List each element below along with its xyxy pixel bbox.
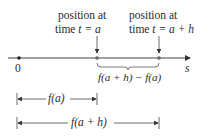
- caption-a-plus-h-line2: time t = a + h: [129, 23, 194, 36]
- brace-label: f(a + h) − f(a): [98, 71, 161, 84]
- point-a-plus-h: [157, 56, 161, 60]
- caption-a-var: t = a: [78, 23, 100, 35]
- caption-a-plus-h-var: t = a + h: [152, 23, 194, 35]
- caption-a-line2: time t = a: [55, 23, 101, 36]
- measure-fa-label: f(a): [48, 92, 65, 105]
- origin-label: 0: [15, 62, 21, 75]
- measure-fah-label: f(a + h): [71, 116, 107, 129]
- caption-a-plus-h-line1: position at: [129, 9, 177, 22]
- brace: [97, 63, 159, 70]
- caption-a-plus-h-prefix: time: [129, 23, 152, 35]
- caption-a-line1: position at: [58, 9, 106, 22]
- caption-a-prefix: time: [55, 23, 78, 35]
- point-a: [95, 56, 99, 60]
- origin-point: [17, 56, 21, 60]
- axis-label-s: s: [185, 62, 189, 75]
